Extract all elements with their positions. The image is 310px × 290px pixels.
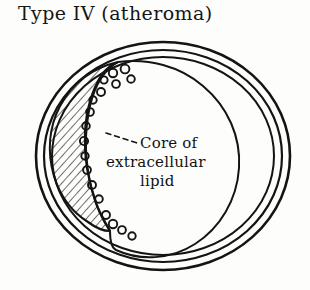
foam-cell [97, 88, 105, 96]
foam-cell [100, 76, 107, 83]
annotation-line-1: Core of [140, 134, 199, 152]
foam-cell [118, 226, 126, 234]
annotation-line-2: extracellular [106, 153, 206, 171]
artery-cross-section-diagram: Core of extracellular lipid [0, 0, 310, 290]
annotation-line-3: lipid [140, 172, 175, 190]
foam-cell [128, 232, 135, 239]
foam-cell [109, 220, 117, 228]
foam-cell [95, 195, 103, 203]
foam-cell [127, 75, 135, 83]
foam-cell [112, 80, 120, 88]
foam-cell [109, 69, 117, 77]
leader-line [106, 133, 137, 143]
foam-cell [121, 65, 130, 74]
figure-root: Type IV (atheroma) [0, 0, 310, 290]
foam-cell [102, 211, 110, 219]
